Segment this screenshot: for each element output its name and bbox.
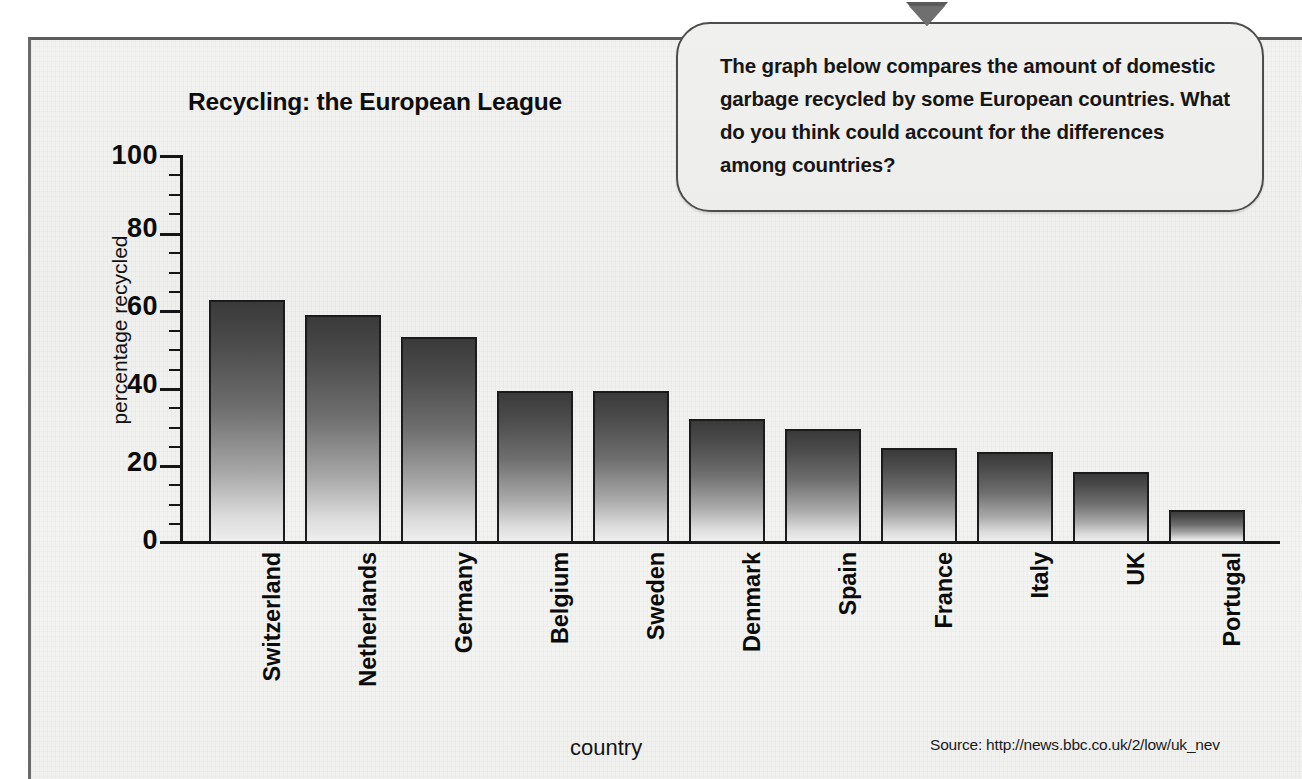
y-major-tick-60 — [160, 310, 180, 313]
y-minor-tick-25 — [169, 446, 180, 448]
y-major-tick-0 — [160, 541, 180, 544]
x-tick-label-denmark: Denmark — [739, 552, 763, 652]
y-major-tick-20 — [160, 465, 180, 468]
x-tick-label-portugal: Portugal — [1219, 552, 1243, 647]
y-tick-label-100: 100 — [78, 140, 158, 171]
y-major-tick-100 — [160, 155, 180, 158]
y-minor-tick-35 — [169, 407, 180, 409]
y-axis-title: percentage recycled — [108, 170, 132, 490]
bar-belgium[interactable] — [497, 391, 573, 543]
y-major-tick-80 — [160, 233, 180, 236]
x-tick-label-belgium: Belgium — [547, 552, 571, 644]
bar-germany[interactable] — [401, 337, 477, 543]
callout-bubble: The graph below compares the amount of d… — [676, 22, 1264, 212]
callout-text: The graph below compares the amount of d… — [720, 49, 1232, 181]
bar-netherlands[interactable] — [305, 315, 381, 543]
x-tick-label-sweden: Sweden — [643, 552, 667, 640]
bar-switzerland[interactable] — [209, 300, 285, 543]
bar-france[interactable] — [881, 448, 957, 543]
x-tick-label-france: France — [931, 552, 955, 628]
x-axis-tick-labels: Switzerland Netherlands Germany Belgium … — [183, 552, 1283, 742]
bar-spain[interactable] — [785, 429, 861, 543]
y-minor-tick-30 — [169, 427, 180, 429]
y-minor-tick-65 — [169, 291, 180, 293]
x-tick-label-italy: Italy — [1027, 552, 1051, 599]
screenshot-root: Recycling: the European League 100 80 60… — [0, 0, 1302, 779]
x-axis-title: country — [570, 735, 642, 761]
y-minor-tick-15 — [169, 484, 180, 486]
y-tick-label-0: 0 — [78, 525, 158, 556]
x-tick-label-spain: Spain — [835, 552, 859, 615]
x-tick-label-uk: UK — [1123, 552, 1147, 586]
y-minor-tick-95 — [169, 174, 180, 176]
y-minor-tick-85 — [169, 213, 180, 215]
y-minor-tick-90 — [169, 194, 180, 196]
y-minor-tick-45 — [169, 369, 180, 371]
bar-portugal[interactable] — [1169, 510, 1245, 543]
source-note: Source: http://news.bbc.co.uk/2/low/uk_n… — [930, 736, 1302, 754]
chart-title: Recycling: the European League — [125, 88, 625, 116]
y-minor-tick-50 — [169, 349, 180, 351]
y-minor-tick-70 — [169, 272, 180, 274]
x-tick-label-netherlands: Netherlands — [355, 552, 379, 687]
bar-uk[interactable] — [1073, 472, 1149, 543]
y-major-tick-40 — [160, 388, 180, 391]
callout-tail-inner-icon — [909, 6, 945, 26]
y-minor-tick-55 — [169, 330, 180, 332]
y-minor-tick-10 — [169, 504, 180, 506]
bar-sweden[interactable] — [593, 391, 669, 543]
bar-denmark[interactable] — [689, 419, 765, 543]
y-minor-tick-75 — [169, 252, 180, 254]
bar-italy[interactable] — [977, 452, 1053, 543]
y-minor-tick-5 — [169, 523, 180, 525]
x-tick-label-switzerland: Switzerland — [259, 552, 283, 681]
x-tick-label-germany: Germany — [451, 552, 475, 653]
